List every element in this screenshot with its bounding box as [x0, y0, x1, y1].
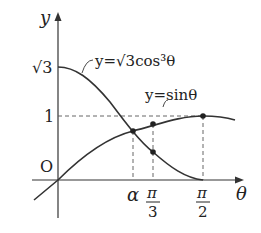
y-tick-1: 1	[44, 107, 54, 126]
x-tick-alpha: α	[127, 184, 139, 205]
sin-pi2-point	[200, 113, 206, 119]
y-axis-label: y	[39, 7, 51, 28]
y-tick-sqrt3: √3	[32, 58, 52, 77]
y-axis-arrow-icon	[55, 12, 62, 21]
points	[130, 113, 206, 155]
sin-pi3-point	[150, 121, 156, 127]
cos-curve-label: y=√3cos³θ	[94, 52, 175, 70]
trig-graph-diagram: y θ O √3 1 α π 3 π 2 y=√3cos³θ y=sinθ	[0, 0, 261, 233]
x-tick-pi2-den: 2	[198, 203, 208, 221]
guide-lines	[58, 116, 203, 180]
x-tick-pi2-num: π	[196, 184, 208, 202]
cos-label-leader	[82, 60, 93, 73]
x-tick-pi3-den: 3	[148, 203, 158, 221]
intersection-point	[130, 128, 136, 134]
x-tick-pi3-num: π	[146, 184, 158, 202]
x-axis-label: θ	[236, 183, 247, 204]
cos-curve	[58, 67, 203, 180]
sin-curve-label: y=sinθ	[144, 86, 197, 104]
origin-label: O	[40, 157, 53, 176]
cos-pi3-point	[150, 149, 156, 155]
